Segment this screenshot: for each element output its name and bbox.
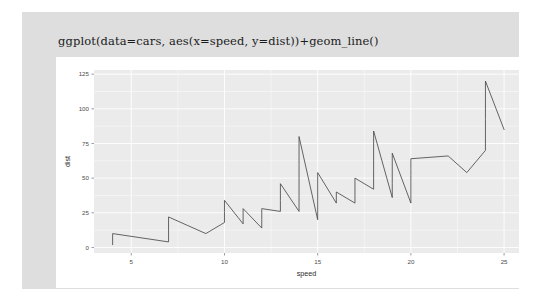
y-tick-label: 125 — [79, 70, 90, 77]
x-tick-label: 15 — [314, 258, 321, 265]
x-axis-title: speed — [297, 269, 317, 278]
y-tick-label: 75 — [82, 140, 89, 147]
code-cell-text: ggplot(data=cars, aes(x=speed, y=dist))+… — [58, 34, 508, 52]
ggplot-line-chart: 0255075100125 510152025 dist speed — [56, 57, 530, 288]
screenshot-root: ggplot(data=cars, aes(x=speed, y=dist))+… — [0, 0, 543, 307]
y-axis-ticks: 0255075100125 — [79, 70, 94, 250]
output-card: ggplot(data=cars, aes(x=speed, y=dist))+… — [22, 12, 519, 289]
plot-card: 0255075100125 510152025 dist speed — [56, 57, 530, 288]
plot-panel — [94, 70, 519, 253]
y-tick-label: 0 — [86, 244, 90, 251]
x-tick-label: 20 — [407, 258, 414, 265]
y-tick-label: 25 — [82, 209, 89, 216]
x-axis-ticks: 510152025 — [130, 253, 509, 265]
x-tick-label: 5 — [130, 258, 134, 265]
x-tick-label: 10 — [221, 258, 228, 265]
x-tick-label: 25 — [501, 258, 508, 265]
y-tick-label: 50 — [82, 174, 89, 181]
y-axis-title: dist — [63, 156, 72, 167]
y-tick-label: 100 — [79, 105, 90, 112]
